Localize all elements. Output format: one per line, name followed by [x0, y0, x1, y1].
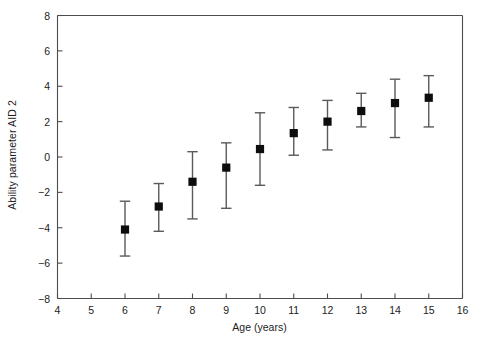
x-tick-label: 12	[322, 304, 334, 316]
x-tick-label: 6	[122, 304, 128, 316]
x-tick-label: 7	[156, 304, 162, 316]
chart-figure: Ability parameter AID 2 86420−2−4−6−8 45…	[0, 0, 479, 343]
y-tick-label: −4	[24, 222, 50, 234]
x-tick-label: 4	[55, 304, 61, 316]
plot-canvas	[0, 0, 479, 343]
x-tick-label: 10	[254, 304, 266, 316]
y-tick-label: −6	[24, 257, 50, 269]
x-tick-label: 11	[288, 304, 299, 316]
x-tick-label: 9	[223, 304, 229, 316]
x-tick-label: 14	[389, 304, 401, 316]
x-tick-label: 13	[355, 304, 367, 316]
y-tick-label: −8	[24, 293, 50, 305]
data-series-errorbars	[120, 76, 434, 256]
y-tick-label: 4	[24, 80, 50, 92]
x-tick-label: 16	[457, 304, 469, 316]
y-tick-label: 8	[24, 10, 50, 22]
y-tick-label: −2	[24, 186, 50, 198]
x-tick-label: 8	[190, 304, 196, 316]
y-tick-label: 0	[24, 151, 50, 163]
x-axis-label: Age (years)	[57, 321, 462, 333]
y-tick-label: 6	[24, 45, 50, 57]
x-tick-label: 5	[88, 304, 94, 316]
x-tick-label: 15	[423, 304, 435, 316]
y-tick-label: 2	[24, 116, 50, 128]
